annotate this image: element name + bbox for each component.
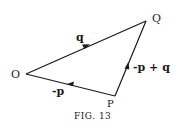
figure-caption: FIG. 13	[74, 112, 111, 121]
arrow-icon-pq	[125, 62, 130, 70]
vertex-label-o: O	[11, 69, 20, 80]
edge-label-neg-p-plus-q: -p + q	[133, 62, 170, 73]
vertex-label-p: P	[107, 99, 114, 109]
edge-label-neg-p: -p	[52, 86, 64, 97]
vertex-label-q: Q	[152, 13, 161, 24]
edge-label-q: q	[76, 32, 84, 43]
